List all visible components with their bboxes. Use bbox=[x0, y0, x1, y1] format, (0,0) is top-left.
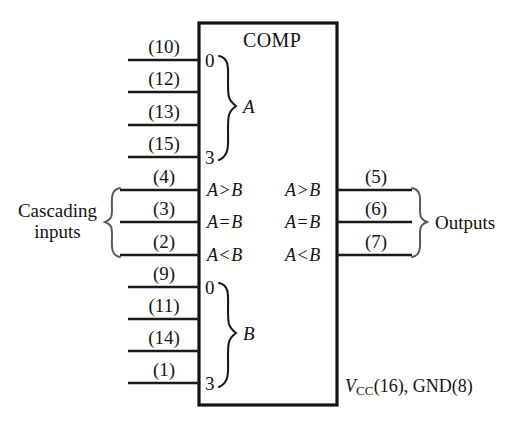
expr-output-a-gt-b-operator: > bbox=[297, 180, 310, 200]
pin-label-out-gt: (5) bbox=[365, 167, 387, 186]
cascading-inputs-caption-line1: Cascading bbox=[10, 200, 105, 221]
power-pins-note: VCC(16), GND(8) bbox=[345, 377, 473, 398]
expr-input-a-eq-b-operator: = bbox=[219, 212, 232, 232]
pin-label-b3: (1) bbox=[153, 360, 175, 379]
bus-letter-b: B bbox=[243, 324, 255, 343]
expr-output-a-lt-b-operand-a: A bbox=[285, 245, 297, 265]
expr-output-a-eq-b: A=B bbox=[285, 213, 321, 231]
pin-label-out-eq: (6) bbox=[365, 199, 387, 218]
expr-input-a-gt-b: A>B bbox=[207, 181, 243, 199]
pin-label-a1: (12) bbox=[148, 69, 180, 88]
power-rail-subscript: CC bbox=[356, 383, 374, 398]
pin-label-a2: (13) bbox=[148, 102, 180, 121]
expr-output-a-gt-b-operand-b: B bbox=[309, 180, 321, 200]
outputs-caption: Outputs bbox=[435, 212, 495, 233]
pin-label-b0: (9) bbox=[153, 264, 175, 283]
pin-label-cascade-eq: (3) bbox=[153, 199, 175, 218]
expr-input-a-gt-b-operand-a: A bbox=[207, 180, 219, 200]
expr-input-a-lt-b-operand-b: B bbox=[231, 245, 243, 265]
expr-input-a-lt-b-operand-a: A bbox=[207, 245, 219, 265]
expr-output-a-lt-b-operand-b: B bbox=[309, 245, 321, 265]
expr-input-a-lt-b-operator: < bbox=[219, 245, 232, 265]
expr-input-a-lt-b: A<B bbox=[207, 246, 243, 264]
expr-output-a-eq-b-operand-a: A bbox=[285, 212, 297, 232]
cascading-inputs-caption-line2: inputs bbox=[10, 221, 105, 242]
expr-output-a-eq-b-operand-b: B bbox=[309, 212, 321, 232]
outputs-brace bbox=[412, 188, 427, 257]
pin-label-cascade-lt: (2) bbox=[153, 232, 175, 251]
pin-label-a3: (15) bbox=[148, 134, 180, 153]
expr-output-a-eq-b-operator: = bbox=[297, 212, 310, 232]
power-pins-text: (16), GND(8) bbox=[374, 376, 473, 396]
cascading-inputs-brace bbox=[105, 188, 120, 257]
expr-output-a-lt-b-operator: < bbox=[297, 245, 310, 265]
expr-input-a-eq-b: A=B bbox=[207, 213, 243, 231]
expr-input-a-gt-b-operator: > bbox=[219, 180, 232, 200]
expr-input-a-eq-b-operand-a: A bbox=[207, 212, 219, 232]
expr-output-a-lt-b: A<B bbox=[285, 246, 321, 264]
power-rail-symbol: V bbox=[345, 376, 356, 396]
bus-letter-a: A bbox=[243, 97, 255, 116]
pin-label-a0: (10) bbox=[148, 37, 180, 56]
cascading-inputs-caption: Cascading inputs bbox=[10, 200, 105, 243]
bus-index-a-top: 0 bbox=[205, 51, 215, 70]
expr-input-a-gt-b-operand-b: B bbox=[231, 180, 243, 200]
bus-index-b-top: 0 bbox=[205, 278, 215, 297]
expr-output-a-gt-b-operand-a: A bbox=[285, 180, 297, 200]
pin-label-b1: (11) bbox=[149, 296, 180, 315]
pin-label-cascade-gt: (4) bbox=[153, 167, 175, 186]
expr-input-a-eq-b-operand-b: B bbox=[231, 212, 243, 232]
figure-canvas: COMP (10) (12) (13) (15) 0 3 A (4) (3) (… bbox=[0, 0, 518, 430]
bus-index-b-bottom: 3 bbox=[205, 374, 215, 393]
pin-label-b2: (14) bbox=[148, 328, 180, 347]
expr-output-a-gt-b: A>B bbox=[285, 181, 321, 199]
pin-label-out-lt: (7) bbox=[365, 232, 387, 251]
block-title-comp: COMP bbox=[243, 30, 301, 50]
bus-index-a-bottom: 3 bbox=[205, 148, 215, 167]
